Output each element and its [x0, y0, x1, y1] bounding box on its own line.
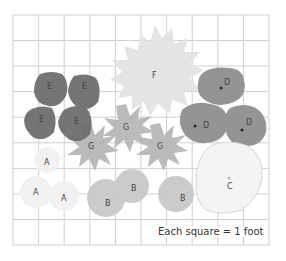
- svg-text:G: G: [157, 142, 163, 151]
- svg-text:B: B: [180, 194, 186, 203]
- svg-text:G: G: [123, 123, 129, 132]
- scale-caption: Each square = 1 foot: [156, 226, 265, 237]
- plant-a-group: [20, 147, 79, 211]
- svg-text:E: E: [74, 117, 79, 126]
- svg-text:B: B: [131, 184, 137, 193]
- svg-text:A: A: [61, 194, 67, 203]
- svg-text:E: E: [39, 115, 44, 124]
- garden-plan: F E E E E D D D G G G A A A B B B C: [0, 0, 286, 261]
- plant-c: [196, 142, 263, 213]
- svg-text:D: D: [246, 118, 252, 127]
- svg-text:D: D: [203, 121, 209, 130]
- svg-text:F: F: [152, 71, 157, 80]
- svg-text:A: A: [44, 158, 50, 167]
- svg-text:E: E: [47, 82, 52, 91]
- svg-text:G: G: [88, 142, 94, 151]
- svg-text:A: A: [33, 188, 39, 197]
- plant-e-group: [24, 72, 100, 141]
- svg-text:C: C: [227, 182, 233, 191]
- plant-f: [110, 25, 204, 116]
- svg-text:B: B: [105, 199, 111, 208]
- svg-text:D: D: [224, 78, 230, 87]
- svg-text:E: E: [82, 82, 87, 91]
